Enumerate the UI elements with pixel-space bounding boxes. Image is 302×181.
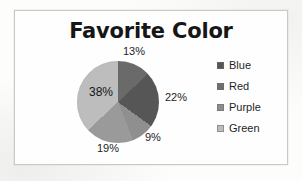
slice-label-left: 38% bbox=[89, 85, 113, 99]
pie-plot-area: 13% 22% 9% 19% 38% bbox=[19, 47, 213, 163]
legend-item-green[interactable]: Green bbox=[217, 118, 287, 138]
legend-item-label: Green bbox=[229, 122, 260, 134]
chart-title: Favorite Color bbox=[15, 19, 287, 43]
legend-swatch-icon bbox=[217, 104, 224, 111]
legend-swatch-icon bbox=[217, 125, 224, 132]
page-background: Favorite Color 13% 22% 9% 19% 38% Blue R… bbox=[0, 0, 302, 181]
legend-item-label: Purple bbox=[229, 101, 261, 113]
chart-legend: Blue Red Purple Green bbox=[217, 55, 287, 139]
legend-item-label: Red bbox=[229, 80, 249, 92]
legend-item-blue[interactable]: Blue bbox=[217, 55, 287, 75]
legend-swatch-icon bbox=[217, 62, 224, 69]
legend-item-red[interactable]: Red bbox=[217, 76, 287, 96]
slice-label-bottom-left: 19% bbox=[97, 142, 119, 154]
legend-swatch-icon bbox=[217, 83, 224, 90]
slice-label-right: 22% bbox=[165, 91, 187, 103]
chart-frame: Favorite Color 13% 22% 9% 19% 38% Blue R… bbox=[14, 10, 288, 165]
slice-label-bottom-right: 9% bbox=[145, 131, 161, 143]
slice-label-top: 13% bbox=[123, 45, 145, 57]
legend-item-label: Blue bbox=[229, 59, 251, 71]
legend-item-purple[interactable]: Purple bbox=[217, 97, 287, 117]
